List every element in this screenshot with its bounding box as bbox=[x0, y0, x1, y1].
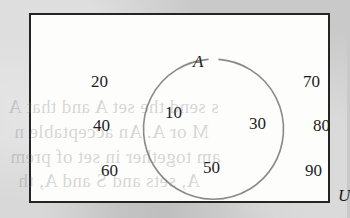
set-a-label: A bbox=[193, 53, 203, 70]
element-60: 60 bbox=[101, 162, 118, 179]
universal-set-rectangle: A 10 30 50 20 40 60 70 80 90 U bbox=[29, 13, 330, 203]
element-30: 30 bbox=[249, 115, 266, 132]
element-40: 40 bbox=[93, 117, 110, 134]
element-20: 20 bbox=[91, 73, 108, 90]
element-80: 80 bbox=[313, 117, 330, 134]
element-90: 90 bbox=[305, 162, 322, 179]
element-10: 10 bbox=[165, 104, 182, 121]
element-50: 50 bbox=[203, 159, 220, 176]
element-70: 70 bbox=[303, 73, 320, 90]
universal-set-label: U bbox=[338, 187, 350, 204]
